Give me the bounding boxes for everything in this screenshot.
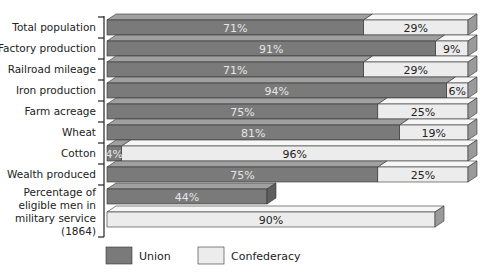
category-label: Factory production [0, 42, 96, 54]
legend-label-union: Union [139, 250, 171, 263]
union-bar-top [107, 35, 445, 41]
confederacy-bar-top [363, 14, 477, 20]
category-label: (1864) [61, 225, 96, 237]
union-bar-top [107, 56, 372, 62]
union-bar-top [107, 98, 387, 104]
union-bar-top [107, 14, 372, 20]
bar-row: Farm acreage75%25% [24, 98, 477, 119]
union-bar-top [107, 119, 408, 125]
union-value: 44% [175, 191, 199, 204]
confederacy-value: 9% [443, 43, 460, 56]
union-bar-top [107, 183, 276, 189]
category-label: Railroad mileage [8, 63, 96, 75]
union-confederacy-resources-chart: Total population71%29%Factory production… [0, 0, 493, 273]
category-label: Wealth produced [7, 168, 96, 180]
confederacy-bar-top [399, 119, 477, 125]
bar-row: Wheat81%19% [62, 119, 477, 140]
category-label: Iron production [16, 84, 96, 96]
confederacy-value: 6% [448, 85, 465, 98]
bar-row: Wealth produced75%25% [7, 161, 477, 182]
bar-row: Cotton4%96% [61, 140, 477, 161]
category-label: Total population [11, 21, 96, 33]
category-label: eligible men in [18, 199, 96, 211]
bar-row: Railroad mileage71%29% [8, 56, 477, 77]
union-value: 75% [230, 106, 254, 119]
union-value: 4% [105, 148, 122, 161]
confederacy-value: 29% [403, 64, 427, 77]
category-label: Percentage of [23, 186, 96, 198]
bar-row-military: 44%90%Percentage ofeligible men inmilita… [15, 183, 444, 237]
confederacy-bar-top [378, 98, 477, 104]
union-value: 71% [223, 64, 247, 77]
category-label: Wheat [62, 126, 96, 138]
bar-row: Total population71%29% [11, 14, 477, 35]
confederacy-bar-top [363, 56, 477, 62]
union-value: 81% [241, 127, 265, 140]
confederacy-bar-top [107, 206, 444, 212]
bar-row: Iron production94%6% [16, 77, 477, 98]
category-label: military service [15, 212, 96, 224]
union-value: 91% [259, 43, 283, 56]
legend-label-confederacy: Confederacy [231, 250, 301, 263]
confederacy-bar-top [378, 161, 477, 167]
union-value: 71% [223, 22, 247, 35]
confederacy-bar-top [121, 140, 477, 146]
legend: UnionConfederacy [106, 247, 301, 264]
union-value: 94% [264, 85, 288, 98]
bar-row: Factory production91%9% [0, 35, 477, 56]
confederacy-value: 25% [411, 106, 435, 119]
confederacy-value: 96% [282, 148, 306, 161]
confederacy-value: 90% [259, 214, 283, 227]
confederacy-value: 25% [411, 169, 435, 182]
union-bar-top [107, 77, 455, 83]
union-bar-top [107, 161, 387, 167]
confederacy-value: 19% [421, 127, 445, 140]
legend-swatch-union [106, 247, 132, 264]
category-label: Cotton [61, 147, 96, 159]
confederacy-value: 29% [403, 22, 427, 35]
union-value: 75% [230, 169, 254, 182]
category-label: Farm acreage [24, 105, 96, 117]
legend-swatch-confederacy [198, 247, 224, 264]
